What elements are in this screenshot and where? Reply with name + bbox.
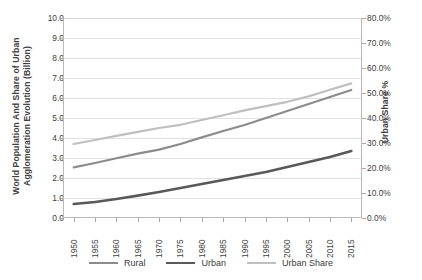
x-tick-mark bbox=[95, 218, 96, 222]
legend-label: Urban Share bbox=[282, 258, 333, 268]
y-tick-label-left: 8.0 bbox=[24, 53, 64, 63]
y-tick-mark-right bbox=[362, 18, 366, 19]
x-tick-mark bbox=[202, 218, 203, 222]
legend-swatch-icon bbox=[89, 262, 118, 264]
x-tick-mark bbox=[116, 218, 117, 222]
y-tick-label-right: 20.0% bbox=[367, 163, 415, 173]
y-tick-label-left: 2.0 bbox=[24, 173, 64, 183]
plot-area bbox=[63, 18, 362, 218]
y-tick-mark-right bbox=[362, 193, 366, 194]
y-tick-mark-right bbox=[362, 43, 366, 44]
y-tick-label-right: 40.0% bbox=[367, 113, 415, 123]
y-tick-label-right: 0.0% bbox=[367, 213, 415, 223]
y-axis-right-title: Urban Share % bbox=[380, 57, 392, 167]
x-tick-mark bbox=[309, 218, 310, 222]
chart-container: World Population And Share of Urban Aggl… bbox=[0, 0, 422, 280]
x-tick-mark bbox=[245, 218, 246, 222]
x-tick-mark bbox=[180, 218, 181, 222]
y-tick-label-right: 70.0% bbox=[367, 38, 415, 48]
y-tick-label-left: 3.0 bbox=[24, 153, 64, 163]
y-tick-mark-right bbox=[362, 68, 366, 69]
y-tick-label-right: 10.0% bbox=[367, 188, 415, 198]
legend-swatch-icon bbox=[247, 262, 276, 264]
y-tick-label-right: 60.0% bbox=[367, 63, 415, 73]
x-tick-mark bbox=[138, 218, 139, 222]
y-tick-label-left: 4.0 bbox=[24, 133, 64, 143]
x-tick-mark bbox=[266, 218, 267, 222]
y-tick-mark-left bbox=[59, 218, 63, 219]
y-tick-mark-right bbox=[362, 143, 366, 144]
y-tick-label-left: 9.0 bbox=[24, 33, 64, 43]
legend-item-rural[interactable]: Rural bbox=[89, 258, 146, 268]
x-tick-mark bbox=[351, 218, 352, 222]
legend-item-urban-share[interactable]: Urban Share bbox=[247, 258, 333, 268]
y-tick-label-left: 5.0 bbox=[24, 113, 64, 123]
chart-legend: RuralUrbanUrban Share bbox=[0, 253, 422, 273]
y-tick-mark-right bbox=[362, 218, 366, 219]
y-tick-label-left: 10.0 bbox=[24, 13, 64, 23]
x-tick-mark bbox=[74, 218, 75, 222]
legend-label: Urban bbox=[201, 258, 226, 268]
y-tick-mark-right bbox=[362, 93, 366, 94]
x-tick-mark bbox=[223, 218, 224, 222]
y-tick-label-left: 7.0 bbox=[24, 73, 64, 83]
y-tick-mark-right bbox=[362, 118, 366, 119]
legend-item-urban[interactable]: Urban bbox=[166, 258, 226, 268]
x-tick-mark bbox=[159, 218, 160, 222]
legend-label: Rural bbox=[124, 258, 146, 268]
y-tick-label-right: 30.0% bbox=[367, 138, 415, 148]
data-series-lines bbox=[63, 18, 362, 218]
legend-swatch-icon bbox=[166, 262, 195, 264]
y-tick-mark-right bbox=[362, 168, 366, 169]
series-line-rural bbox=[74, 90, 352, 167]
x-tick-mark bbox=[287, 218, 288, 222]
y-tick-label-left: 6.0 bbox=[24, 93, 64, 103]
y-tick-label-left: 1.0 bbox=[24, 193, 64, 203]
y-tick-label-left: 0.0 bbox=[24, 213, 64, 223]
y-tick-label-right: 50.0% bbox=[367, 88, 415, 98]
y-tick-label-right: 80.0% bbox=[367, 13, 415, 23]
x-tick-mark bbox=[330, 218, 331, 222]
